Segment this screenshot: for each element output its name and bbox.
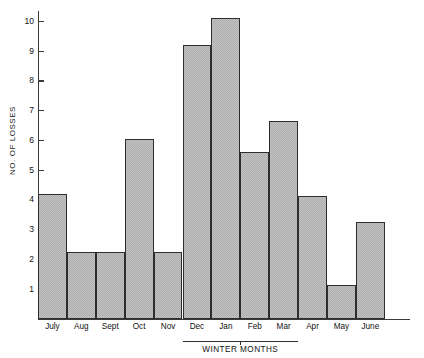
y-tick-label-8: 8	[0, 76, 34, 85]
bar-mar	[269, 121, 298, 319]
y-tick-label-9: 9	[0, 47, 34, 56]
bar-june	[356, 222, 385, 319]
y-tick-label-1: 1	[0, 285, 34, 294]
y-tick-label-10: 10	[0, 17, 34, 26]
bar-sept	[96, 252, 125, 319]
y-tick-label-7: 7	[0, 106, 34, 115]
bar-chart: NO. OF LOSSES 12345678910 JulyAugSeptOct…	[0, 0, 424, 358]
bar-feb	[240, 152, 269, 319]
y-tick-label-5: 5	[0, 166, 34, 175]
bar-may	[327, 285, 356, 319]
y-tick-label-4: 4	[0, 195, 34, 204]
bar-jan	[211, 18, 240, 319]
y-tick-label-6: 6	[0, 136, 34, 145]
y-tick-label-3: 3	[0, 225, 34, 234]
bar-july	[38, 194, 67, 319]
plot-area	[38, 11, 410, 319]
bar-apr	[298, 196, 327, 319]
x-axis-line	[38, 319, 410, 320]
bar-aug	[67, 252, 96, 319]
x-tick-label-june: June	[351, 323, 390, 331]
y-tick-label-2: 2	[0, 255, 34, 264]
bar-dec	[183, 45, 212, 319]
bar-nov	[154, 252, 183, 319]
winter-months-label: WINTER MONTHS	[163, 346, 319, 354]
bar-oct	[125, 139, 154, 319]
